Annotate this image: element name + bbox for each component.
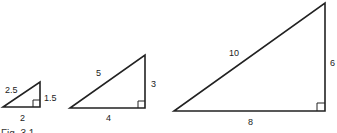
triangle-large-shape xyxy=(174,3,325,111)
label-small-hypotenuse: 2.5 xyxy=(5,85,18,95)
triangle-medium-shape xyxy=(70,55,145,108)
label-small-vertical: 1.5 xyxy=(44,93,57,103)
label-large-base: 8 xyxy=(248,117,253,127)
label-small-base: 2 xyxy=(20,113,25,123)
triangle-small: 2.5 1.5 2 xyxy=(3,82,57,123)
right-angle-marker-icon xyxy=(138,101,145,108)
triangle-medium: 5 3 4 xyxy=(70,55,156,123)
triangle-large: 10 6 8 xyxy=(174,3,335,127)
label-medium-base: 4 xyxy=(106,113,111,123)
label-large-vertical: 6 xyxy=(330,58,335,68)
similar-triangles-figure: 2.5 1.5 2 5 3 4 10 6 8 Fig. 3.1 xyxy=(0,0,337,133)
label-medium-vertical: 3 xyxy=(151,79,156,89)
right-angle-marker-icon xyxy=(317,103,325,111)
label-large-hypotenuse: 10 xyxy=(229,48,239,58)
right-angle-marker-icon xyxy=(33,100,40,107)
label-medium-hypotenuse: 5 xyxy=(96,68,101,78)
figure-caption: Fig. 3.1 xyxy=(1,128,35,133)
